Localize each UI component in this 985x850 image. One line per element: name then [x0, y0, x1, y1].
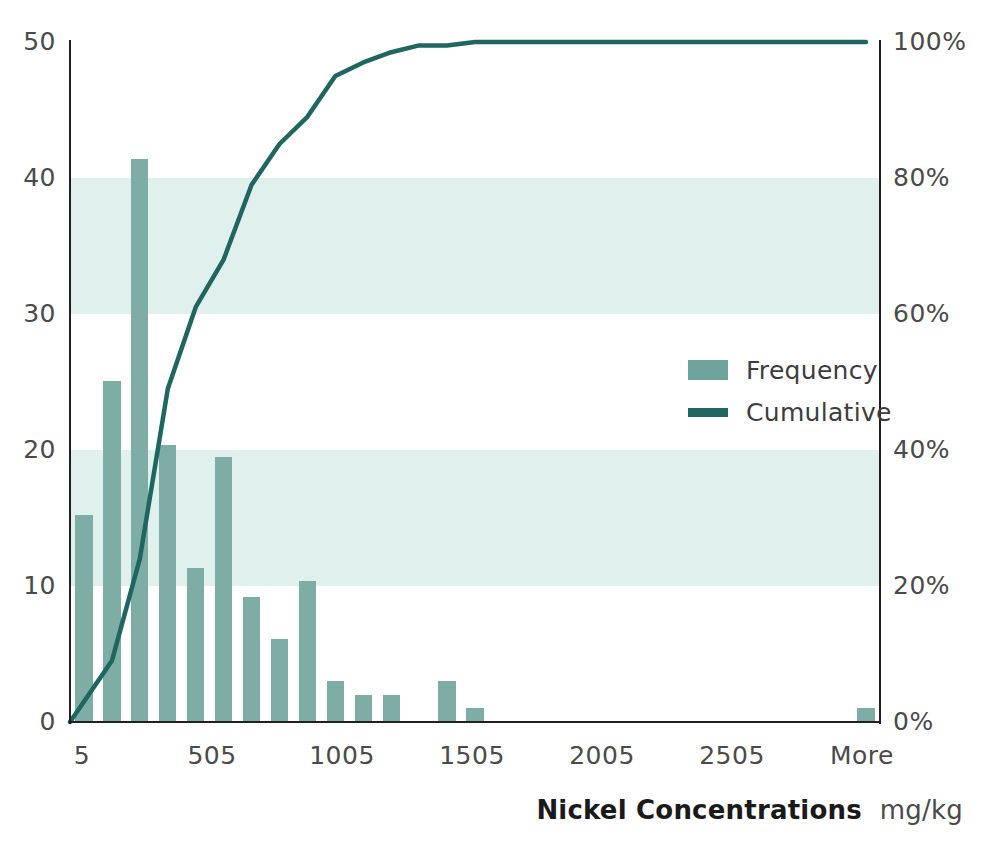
x-axis-title-main: Nickel Concentrations: [536, 795, 861, 825]
y-axis-right-tick-label: 60%: [893, 301, 950, 326]
legend-swatch-frequency-icon: [688, 360, 728, 380]
x-axis-title: Nickel Concentrations mg/kg: [536, 795, 963, 825]
y-axis-left-tick-label: 10: [23, 573, 56, 598]
x-axis-tick-label: 505: [187, 743, 236, 768]
chart-canvas: 01020304050 0%20%40%60%80%100% 550510051…: [0, 0, 985, 850]
y-axis-left-tick-label: 40: [23, 165, 56, 190]
x-axis-tick-label: 1005: [309, 743, 375, 768]
x-axis-tick-label: 2005: [569, 743, 635, 768]
legend-label-frequency: Frequency: [746, 358, 878, 383]
x-axis-tick-label: More: [830, 743, 894, 768]
y-axis-right-tick-label: 80%: [893, 165, 950, 190]
y-axis-left-tick-label: 0: [40, 709, 56, 734]
y-axis-left-tick-label: 20: [23, 437, 56, 462]
y-axis-right-tick-label: 40%: [893, 437, 950, 462]
y-axis-left-tick-label: 30: [23, 301, 56, 326]
legend-item-frequency: Frequency: [688, 352, 892, 388]
x-axis-title-unit: mg/kg: [880, 795, 963, 825]
chart-legend: Frequency Cumulative: [688, 352, 892, 436]
legend-swatch-cumulative-icon: [688, 408, 728, 417]
x-axis-line: [69, 721, 881, 723]
y-axis-right-tick-label: 20%: [893, 573, 950, 598]
y-axis-left-line: [69, 40, 71, 724]
y-axis-right-ticks: 0%20%40%60%80%100%: [893, 0, 985, 850]
y-axis-left-tick-label: 50: [23, 29, 56, 54]
x-axis-tick-label: 2505: [699, 743, 765, 768]
legend-item-cumulative: Cumulative: [688, 394, 892, 430]
y-axis-left-ticks: 01020304050: [0, 0, 56, 850]
x-axis-tick-label: 5: [74, 743, 90, 768]
legend-label-cumulative: Cumulative: [746, 400, 892, 425]
x-axis-tick-label: 1505: [439, 743, 505, 768]
y-axis-right-tick-label: 100%: [893, 29, 966, 54]
y-axis-right-tick-label: 0%: [893, 709, 934, 734]
